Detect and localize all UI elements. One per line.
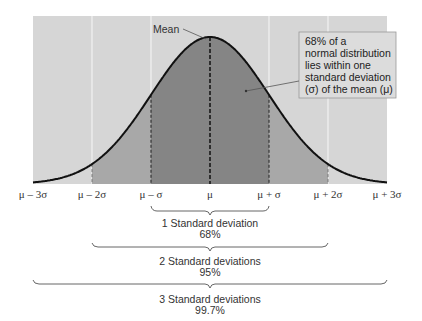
tick-plus-3-sigma: μ + 3σ: [372, 188, 401, 200]
tick-minus-3-sigma: μ – 3σ: [19, 188, 47, 200]
bracket-2-value: 95%: [199, 266, 220, 278]
bracket-1-value: 68%: [199, 228, 220, 240]
svg-text:normal distribution: normal distribution: [305, 47, 391, 59]
brace-1-sigma: [151, 206, 269, 215]
normal-distribution-diagram: Mean 68% of a normal distribution lies w…: [0, 0, 422, 321]
tick-minus-1-sigma: μ – σ: [140, 188, 163, 200]
brace-2-sigma: [92, 243, 328, 251]
tick-mean: μ: [207, 188, 213, 200]
svg-text:standard deviation: standard deviation: [305, 71, 391, 83]
bracket-3-value: 99.7%: [195, 304, 225, 316]
tick-plus-2-sigma: μ + 2σ: [313, 188, 342, 200]
bracket-labels: 1 Standard deviation 68% 2 Standard devi…: [159, 217, 261, 316]
tick-plus-1-sigma: μ + σ: [257, 188, 281, 200]
tick-minus-2-sigma: μ – 2σ: [78, 188, 106, 200]
callout-pointer-dot: [245, 90, 247, 92]
axis-tick-labels: μ – 3σ μ – 2σ μ – σ μ μ + σ μ + 2σ μ + 3…: [19, 188, 402, 200]
brace-3-sigma: [33, 280, 387, 288]
mean-label: Mean: [153, 23, 179, 35]
svg-text:(σ) of the mean (μ): (σ) of the mean (μ): [305, 83, 393, 95]
svg-text:lies within one: lies within one: [305, 59, 371, 71]
svg-text:68% of a: 68% of a: [305, 35, 347, 47]
